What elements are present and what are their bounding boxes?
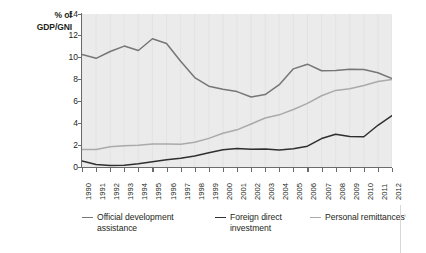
x-tick-label: 2006 bbox=[310, 183, 318, 200]
x-tick-mark bbox=[152, 168, 153, 172]
x-tick-mark bbox=[124, 168, 125, 172]
x-tick-label: 1991 bbox=[99, 183, 107, 200]
x-tick-mark bbox=[336, 168, 337, 172]
x-tick-label: 1993 bbox=[127, 183, 135, 200]
x-tick-mark bbox=[195, 168, 196, 172]
x-tick-label: 2003 bbox=[268, 183, 276, 200]
x-tick-mark bbox=[237, 168, 238, 172]
legend-item-foreign-direct-investment: Foreign direct investment bbox=[215, 212, 307, 233]
x-tick-label: 1995 bbox=[155, 183, 163, 200]
x-tick-label: 2008 bbox=[339, 183, 347, 200]
x-tick-label: 2000 bbox=[226, 183, 234, 200]
y-tick-label: 0 bbox=[56, 163, 78, 172]
x-tick-mark bbox=[251, 168, 252, 172]
plot-area bbox=[82, 14, 392, 167]
x-tick-label: 1992 bbox=[113, 183, 121, 200]
x-tick-mark bbox=[279, 168, 280, 172]
y-tick-mark bbox=[78, 35, 81, 36]
y-tick-mark bbox=[78, 14, 81, 15]
x-tick-label: 1990 bbox=[85, 183, 93, 200]
y-tick-label: 4 bbox=[56, 119, 78, 128]
y-tick-mark bbox=[78, 123, 81, 124]
x-tick-mark bbox=[209, 168, 210, 172]
x-tick-mark bbox=[181, 168, 182, 172]
x-tick-label: 1999 bbox=[212, 183, 220, 200]
legend-label: Official development assistance bbox=[97, 212, 202, 233]
side-note: S bbox=[404, 214, 426, 219]
y-tick-label: 14 bbox=[56, 10, 78, 19]
x-tick-mark bbox=[167, 168, 168, 172]
y-tick-label: 10 bbox=[56, 53, 78, 62]
x-tick-label: 1996 bbox=[170, 183, 178, 200]
x-tick-mark bbox=[364, 168, 365, 172]
y-tick-mark bbox=[78, 145, 81, 146]
legend-label: Personal remittances bbox=[325, 212, 405, 223]
x-tick-mark bbox=[350, 168, 351, 172]
x-tick-mark bbox=[378, 168, 379, 172]
x-tick-mark bbox=[82, 168, 83, 172]
y-tick-mark bbox=[78, 79, 81, 80]
chart-legend: Official development assistance Foreign … bbox=[60, 212, 420, 248]
side-divider bbox=[400, 205, 401, 253]
legend-swatch-icon bbox=[215, 217, 226, 219]
data-series-layer bbox=[82, 14, 392, 167]
x-tick-mark bbox=[322, 168, 323, 172]
x-tick-label: 1998 bbox=[198, 183, 206, 200]
y-tick-label: 2 bbox=[56, 141, 78, 150]
x-tick-mark bbox=[392, 168, 393, 172]
y-tick-label: 6 bbox=[56, 97, 78, 106]
y-tick-mark bbox=[78, 167, 81, 168]
y-axis-line bbox=[81, 13, 82, 168]
legend-swatch-icon bbox=[82, 217, 93, 219]
y-tick-mark bbox=[78, 101, 81, 102]
x-tick-mark bbox=[293, 168, 294, 172]
x-tick-label: 1994 bbox=[141, 183, 149, 200]
x-tick-label: 2004 bbox=[282, 183, 290, 200]
legend-label: Foreign direct investment bbox=[230, 212, 307, 233]
x-tick-label: 2012 bbox=[395, 183, 403, 200]
legend-item-official-development-assistance: Official development assistance bbox=[82, 212, 202, 233]
y-tick-label: 8 bbox=[56, 75, 78, 84]
x-tick-label: 2002 bbox=[254, 183, 262, 200]
x-tick-label: 2011 bbox=[381, 184, 389, 200]
x-tick-mark bbox=[265, 168, 266, 172]
x-tick-mark bbox=[110, 168, 111, 172]
chart-figure: % of GDP/GNI 02468101214 199019911992199… bbox=[0, 0, 426, 253]
y-tick-label: 12 bbox=[56, 31, 78, 40]
x-tick-mark bbox=[307, 168, 308, 172]
x-tick-mark bbox=[96, 168, 97, 172]
legend-swatch-icon bbox=[310, 217, 321, 219]
x-tick-label: 2009 bbox=[353, 183, 361, 200]
x-tick-label: 2001 bbox=[240, 183, 248, 200]
x-tick-label: 2005 bbox=[296, 183, 304, 200]
x-axis-ticklabels: 1990199119921993199419951996199719981999… bbox=[82, 172, 392, 204]
x-tick-mark bbox=[223, 168, 224, 172]
x-tick-mark bbox=[138, 168, 139, 172]
x-tick-label: 2010 bbox=[367, 183, 375, 200]
y-tick-mark bbox=[78, 57, 81, 58]
x-tick-label: 2007 bbox=[325, 183, 333, 200]
x-tick-label: 1997 bbox=[184, 183, 192, 200]
